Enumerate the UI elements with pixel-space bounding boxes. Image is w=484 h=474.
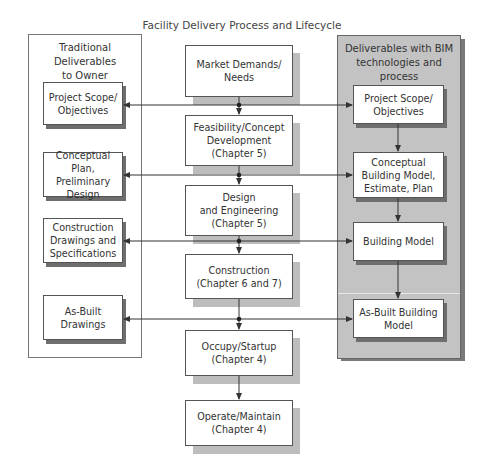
connector-lines — [0, 0, 484, 474]
